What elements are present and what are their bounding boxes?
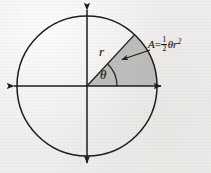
radius-label: r <box>99 45 104 58</box>
sector-shaded-region <box>87 35 157 86</box>
area-formula-equals: = <box>155 38 161 50</box>
angle-theta-label: θ <box>100 68 106 81</box>
diagram-canvas <box>0 0 211 173</box>
fraction-numerator: 1 <box>161 36 167 44</box>
circle-sector-area-diagram: r θ A=12θr2 <box>0 0 211 173</box>
area-formula-exponent: 2 <box>177 37 181 46</box>
fraction-denominator: 2 <box>161 44 167 53</box>
one-half-fraction: 12 <box>161 36 167 52</box>
area-formula-label: A=12θr2 <box>148 36 181 52</box>
area-formula-lhs: A <box>148 38 155 50</box>
